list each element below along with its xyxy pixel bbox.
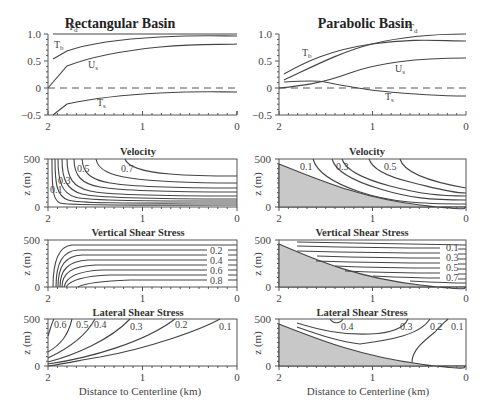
panel-title: Lateral Shear Stress	[316, 307, 407, 318]
x-tick-label: 2	[276, 292, 282, 304]
x-tick-label: 2	[45, 371, 51, 383]
x-tick-label: 1	[140, 120, 146, 132]
y-tick-label: 0	[266, 281, 272, 293]
x-tick-label: 0	[463, 371, 469, 383]
panel-title: Velocity	[349, 146, 386, 157]
y-tick-label: 500	[24, 153, 41, 165]
x-tick-label: 0	[234, 292, 240, 304]
contour-label: 0.8	[210, 275, 223, 286]
y-tick-label: 0	[267, 82, 273, 94]
x-tick-label: 1	[140, 292, 146, 304]
para-velocity-contour: Velocity 500 0 2 1 0 z (m) 0.1 0.3 0.5	[251, 146, 469, 224]
contour-label: 0.4	[94, 319, 107, 330]
para-top-chart: Parabolic Basin 1.0 0.5 0 −0.5 2 1 0 Td …	[252, 16, 469, 132]
label-Ts: Ts	[97, 97, 106, 110]
rect-title: Rectangular Basin	[65, 16, 176, 31]
x-ticks	[48, 111, 237, 115]
contour-label: 0.5	[384, 161, 397, 172]
contour-label: 0.3	[336, 161, 349, 172]
contour-label: 0.7	[121, 163, 134, 174]
contour-label: 0.5	[77, 163, 90, 174]
y-tick-label: 500	[255, 234, 272, 246]
label-Td: Td	[408, 22, 418, 35]
x-tick-label: 0	[234, 120, 240, 132]
panel-title: Vertical Shear Stress	[91, 227, 184, 238]
x-tick-label: 2	[276, 120, 282, 132]
contour-label: 0.1	[300, 161, 313, 172]
y-tick-label: 0	[36, 82, 42, 94]
y-tick-label: 0	[35, 360, 41, 372]
y-tick-label: 0.5	[258, 55, 272, 67]
y-axis-label: z (m)	[20, 172, 33, 196]
rect-top-chart: Rectangular Basin 1.0 0.5 0 −0.5 2 1 0 T…	[21, 16, 240, 132]
rect-velocity-contour: Velocity 500 0 2 1 0 z (m) 0.1 0.3 0.5 0…	[20, 146, 240, 224]
contour-label: 0.1	[219, 321, 232, 332]
rect-vshear-contour: Vertical Shear Stress 500 0 2 1 0 z (m) …	[20, 227, 240, 304]
x-axis-label: Distance to Centerline (km)	[79, 385, 202, 398]
contour-label: 0.1	[451, 321, 464, 332]
y-tick-label: 0	[35, 281, 41, 293]
curve-Ts	[53, 92, 237, 115]
para-title: Parabolic Basin	[318, 16, 413, 31]
contour-label: 0.2	[175, 319, 188, 330]
x-tick-label: 1	[370, 371, 376, 383]
contour-label: 0.2	[430, 321, 443, 332]
y-tick-label: 500	[255, 313, 272, 325]
contour-label: 0.4	[341, 321, 354, 332]
y-tick-label: 500	[24, 234, 41, 246]
curve-Us	[48, 44, 237, 88]
x-tick-label: 2	[45, 292, 51, 304]
y-tick-label: 500	[24, 313, 41, 325]
panel-title: Vertical Shear Stress	[315, 227, 408, 238]
rect-lshear-contour: Lateral Shear Stress 500 0 2 1 0 z (m) D…	[20, 307, 240, 398]
figure: Rectangular Basin 1.0 0.5 0 −0.5 2 1 0 T…	[0, 0, 492, 410]
y-tick-label: −0.5	[21, 109, 41, 121]
para-lshear-contour: Lateral Shear Stress 500 0 2 1 0 z (m) D…	[251, 307, 469, 398]
contour-label: 0.7	[446, 272, 459, 283]
y-tick-label: 0	[266, 201, 272, 213]
contour-label: 0.3	[58, 175, 71, 186]
x-tick-label: 2	[276, 212, 282, 224]
contour-label: 0.3	[400, 321, 413, 332]
contour-label: 0.6	[54, 319, 67, 330]
y-axis-label: z (m)	[251, 252, 264, 276]
x-tick-label: 2	[276, 371, 282, 383]
contour-label: 0.5	[76, 319, 89, 330]
y-tick-label: 0	[266, 360, 272, 372]
x-axis-label: Distance to Centerline (km)	[307, 385, 430, 398]
y-tick-label: 0.5	[27, 55, 41, 67]
y-tick-label: 500	[255, 153, 272, 165]
label-Us: Us	[395, 63, 405, 76]
y-axis-label: z (m)	[251, 331, 264, 355]
panel-title: Velocity	[120, 146, 157, 157]
y-tick-label: 1.0	[258, 28, 272, 40]
x-tick-label: 0	[463, 120, 469, 132]
y-tick-label: 0	[35, 201, 41, 213]
y-ticks	[44, 34, 48, 115]
y-axis-label: z (m)	[20, 331, 33, 355]
x-tick-label: 0	[463, 292, 469, 304]
label-Tb: Tb	[54, 39, 64, 52]
x-tick-label: 1	[140, 212, 146, 224]
label-Us: Us	[88, 59, 98, 72]
contour-label: 0.3	[130, 321, 143, 332]
label-Ts: Ts	[385, 91, 394, 104]
x-tick-label: 0	[234, 371, 240, 383]
y-tick-label: −0.5	[252, 109, 272, 121]
y-axis-label: z (m)	[251, 172, 264, 196]
x-tick-label: 2	[45, 212, 51, 224]
x-tick-label: 2	[45, 120, 51, 132]
curve-Tb	[53, 36, 237, 59]
para-vshear-contour: Vertical Shear Stress 500 0 2 1 0 z (m) …	[251, 227, 469, 304]
panel-title: Lateral Shear Stress	[92, 307, 183, 318]
label-Tb: Tb	[302, 47, 312, 60]
x-tick-label: 0	[234, 212, 240, 224]
x-tick-label: 1	[370, 212, 376, 224]
x-tick-label: 1	[370, 120, 376, 132]
x-tick-label: 1	[370, 292, 376, 304]
y-axis-label: z (m)	[20, 252, 33, 276]
x-tick-label: 1	[140, 371, 146, 383]
y-tick-label: 1.0	[27, 28, 41, 40]
x-tick-label: 0	[463, 212, 469, 224]
